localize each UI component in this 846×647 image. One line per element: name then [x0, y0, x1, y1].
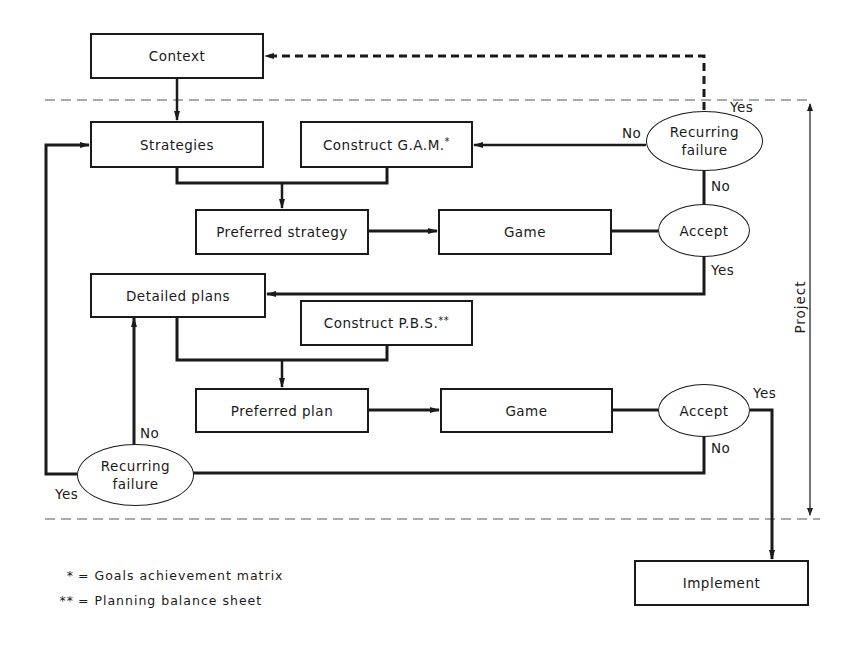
legend-text: = Goals achievement matrix [78, 568, 284, 583]
recurring-failure-bottom-line2: failure [112, 475, 158, 493]
edge-label-top-accept-yes: Yes [711, 262, 734, 278]
construct-pbs-label: Construct P.B.S. [324, 315, 438, 331]
preferred-plan-label: Preferred plan [231, 403, 333, 419]
game-bottom-node: Game [440, 388, 613, 433]
game-top-label: Game [504, 224, 546, 240]
accept-bottom-label: Accept [679, 402, 728, 420]
legend-mark: ** [50, 593, 74, 608]
game-bottom-label: Game [505, 403, 547, 419]
edge-label-bottom-accept-yes: Yes [753, 385, 776, 401]
recurring-failure-bottom-line1: Recurring [101, 457, 170, 475]
recurring-failure-top-line2: failure [681, 141, 727, 159]
game-top-node: Game [438, 209, 612, 255]
recurring-failure-top-line1: Recurring [670, 123, 739, 141]
accept-top-node: Accept [658, 204, 750, 257]
gam-footnote-mark: * [445, 136, 451, 147]
context-label: Context [149, 48, 205, 64]
implement-label: Implement [683, 575, 761, 591]
edge-label-bottom-rf-no: No [140, 425, 159, 441]
detailed-plans-node: Detailed plans [90, 273, 266, 318]
context-node: Context [90, 33, 264, 79]
edge-label-bottom-rf-yes: Yes [55, 486, 78, 502]
edge-label-top-rf-yes: Yes [730, 99, 753, 115]
project-bracket-label: Project [792, 272, 808, 342]
accept-top-label: Accept [679, 222, 728, 240]
construct-gam-node: Construct G.A.M.* [300, 121, 473, 168]
construct-pbs-node: Construct P.B.S.** [300, 300, 473, 346]
pbs-footnote-mark: ** [438, 315, 449, 326]
implement-node: Implement [634, 560, 809, 606]
preferred-strategy-node: Preferred strategy [195, 209, 369, 255]
strategies-node: Strategies [90, 121, 264, 168]
detailed-plans-label: Detailed plans [126, 288, 230, 304]
recurring-failure-bottom-node: Recurring failure [77, 444, 194, 506]
preferred-strategy-label: Preferred strategy [216, 224, 348, 240]
construct-gam-label: Construct G.A.M. [323, 137, 445, 153]
accept-bottom-node: Accept [658, 384, 750, 437]
legend-item-gam: *= Goals achievement matrix [50, 568, 284, 583]
recurring-failure-top-node: Recurring failure [646, 111, 763, 171]
legend-item-pbs: **= Planning balance sheet [50, 593, 262, 608]
preferred-plan-node: Preferred plan [195, 388, 369, 433]
legend-text: = Planning balance sheet [78, 593, 262, 608]
legend-mark: * [50, 568, 74, 583]
edge-label-top-rf-no-left: No [622, 125, 641, 141]
strategies-label: Strategies [140, 137, 214, 153]
edge-label-top-rf-no-down: No [711, 178, 730, 194]
edge-label-bottom-accept-no: No [711, 440, 730, 456]
